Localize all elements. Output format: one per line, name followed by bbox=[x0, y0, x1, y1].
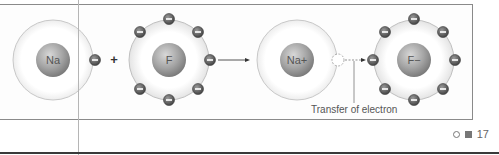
sodium-atom: Na bbox=[13, 20, 101, 100]
circle-icon bbox=[453, 131, 460, 138]
electron-icon bbox=[164, 14, 175, 25]
sodium-ion: Na+ bbox=[257, 20, 344, 100]
electron-icon bbox=[438, 84, 449, 95]
plus-sign: + bbox=[110, 52, 118, 67]
electron-icon bbox=[205, 55, 216, 66]
fluorine-label: F bbox=[166, 54, 173, 66]
bottom-rule bbox=[0, 152, 499, 154]
electron-icon bbox=[193, 84, 204, 95]
electron-vacancy-icon bbox=[332, 54, 344, 66]
fluorine-atom: F bbox=[129, 14, 216, 106]
page-number: 17 bbox=[477, 128, 489, 140]
electron-icon bbox=[164, 95, 175, 106]
ionic-bond-diagram: Na + F Na+ bbox=[0, 0, 499, 155]
electron-icon bbox=[193, 27, 204, 38]
transfer-arrow bbox=[345, 58, 366, 103]
transfer-annotation: Transfer of electron bbox=[311, 104, 397, 115]
page-footer: 17 bbox=[453, 128, 489, 140]
electron-icon bbox=[368, 55, 379, 66]
electron-icon bbox=[450, 55, 461, 66]
electron-icon bbox=[409, 95, 420, 106]
reaction-arrow bbox=[218, 58, 250, 62]
sodium-label: Na bbox=[46, 54, 61, 66]
electron-icon bbox=[409, 14, 420, 25]
electron-icon bbox=[380, 27, 391, 38]
electron-icon bbox=[90, 55, 101, 66]
electron-icon bbox=[135, 27, 146, 38]
sodium-ion-label: Na+ bbox=[287, 54, 308, 66]
electron-icon bbox=[135, 84, 146, 95]
diagram-stage: Na + F Na+ bbox=[0, 0, 499, 155]
square-icon bbox=[465, 131, 472, 138]
fluoride-ion: F− bbox=[368, 14, 461, 106]
electron-icon bbox=[380, 84, 391, 95]
fluoride-label: F− bbox=[407, 54, 420, 66]
electron-icon bbox=[438, 27, 449, 38]
margin-line bbox=[78, 0, 79, 155]
